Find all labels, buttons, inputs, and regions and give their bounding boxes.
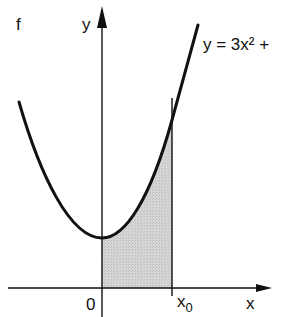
x0-label: x0 <box>177 292 193 315</box>
shaded-area <box>102 120 172 288</box>
origin-label: 0 <box>86 295 95 314</box>
x-axis-arrow-icon <box>256 284 272 292</box>
equation-label: y = 3x² + <box>203 35 269 54</box>
x0-subscript: 0 <box>186 300 193 315</box>
corner-label: f <box>16 15 21 34</box>
integral-diagram: f y y = 3x² + 0 x0 x <box>0 0 290 317</box>
y-axis-arrow-icon <box>97 6 107 28</box>
x-axis-label: x <box>246 294 255 313</box>
y-axis-label: y <box>82 15 91 34</box>
